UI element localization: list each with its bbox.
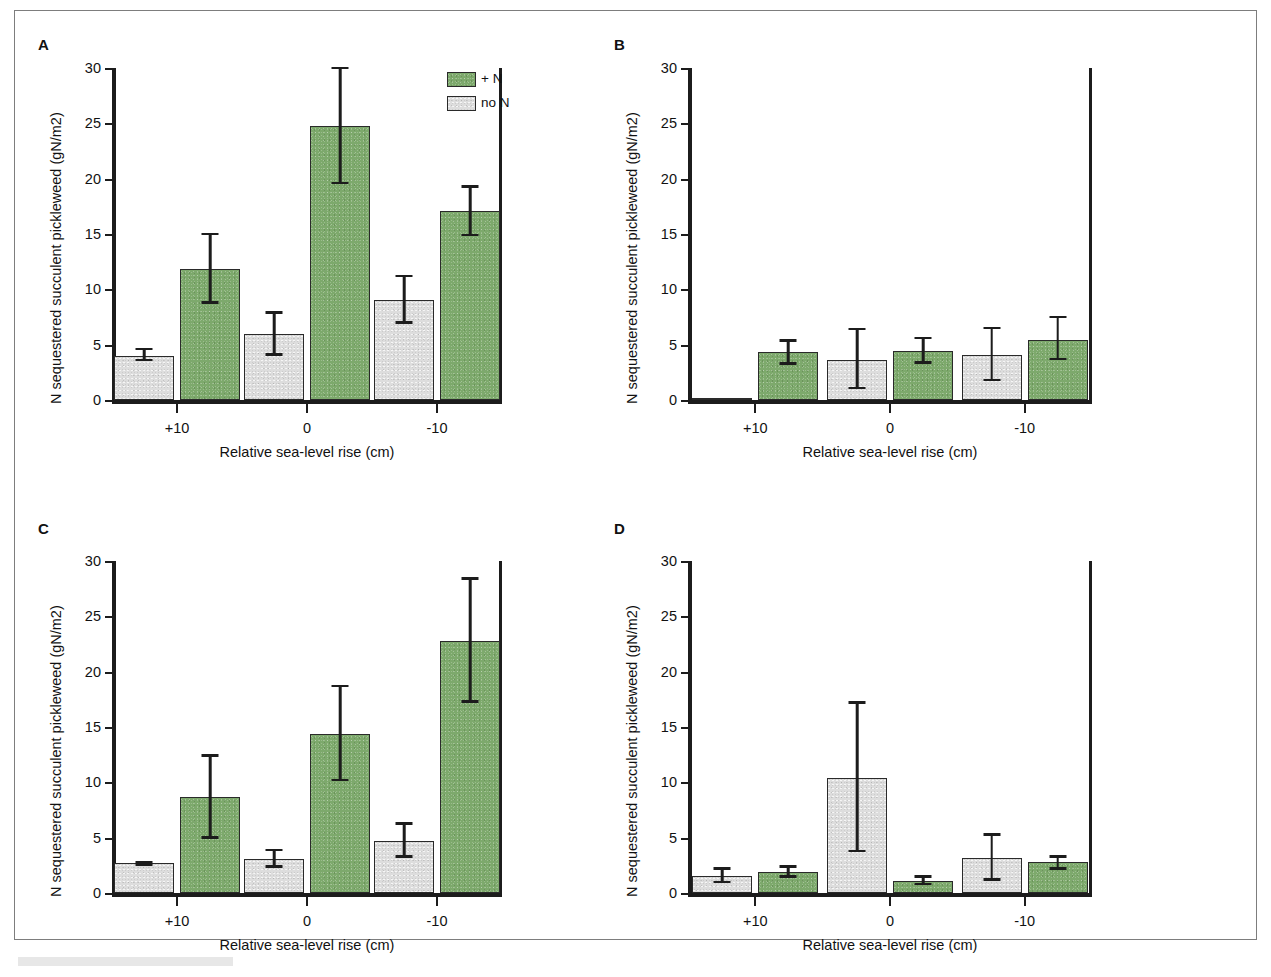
panel-d: D051015202530N sequestered succulent pic… (0, 0, 1271, 977)
y-tick-label: 5 (669, 830, 677, 846)
y-tick-label: 15 (661, 719, 677, 735)
y-tick-label: 20 (661, 664, 677, 680)
error-bar-cap-top (714, 867, 731, 870)
error-bar-stem (990, 834, 993, 879)
x-tick (1024, 897, 1026, 906)
error-bar-cap-top (983, 833, 1000, 836)
error-bar-cap-bottom (915, 883, 932, 886)
error-bar (827, 561, 887, 893)
error-bar-cap-top (849, 701, 866, 704)
right-axis-line (1089, 561, 1093, 897)
panel-letter-d: D (614, 520, 625, 537)
x-tick-label: 0 (886, 913, 894, 929)
error-bar-cap-bottom (714, 881, 731, 884)
error-bar-cap-bottom (1049, 867, 1066, 870)
x-tick-label: +10 (743, 913, 768, 929)
y-tick (681, 561, 688, 563)
error-bar (893, 561, 953, 893)
error-bar (692, 561, 752, 893)
error-bar (962, 561, 1022, 893)
y-tick (681, 838, 688, 840)
error-bar-cap-top (780, 865, 797, 868)
x-tick (754, 897, 756, 906)
error-bar-stem (856, 703, 859, 851)
x-axis-title: Relative sea-level rise (cm) (803, 937, 978, 953)
x-tick (889, 897, 891, 906)
y-tick (681, 782, 688, 784)
error-bar-cap-bottom (849, 850, 866, 853)
y-tick (681, 727, 688, 729)
y-tick (681, 672, 688, 674)
error-bar-cap-bottom (780, 875, 797, 878)
error-bar (758, 561, 818, 893)
y-tick-label: 30 (661, 553, 677, 569)
y-axis-title: N sequestered succulent pickleweed (gN/m… (624, 605, 640, 897)
error-bar-cap-top (1049, 855, 1066, 858)
error-bar-cap-top (915, 875, 932, 878)
x-tick-label: -10 (1014, 913, 1035, 929)
y-axis-line (688, 561, 692, 893)
error-bar-cap-bottom (983, 878, 1000, 881)
plot-area-d: 051015202530N sequestered succulent pick… (688, 561, 1092, 893)
y-tick (681, 616, 688, 618)
error-bar (1028, 561, 1088, 893)
y-tick-label: 10 (661, 774, 677, 790)
y-tick-label: 25 (661, 608, 677, 624)
y-tick-label: 0 (669, 885, 677, 901)
y-tick (681, 893, 688, 895)
